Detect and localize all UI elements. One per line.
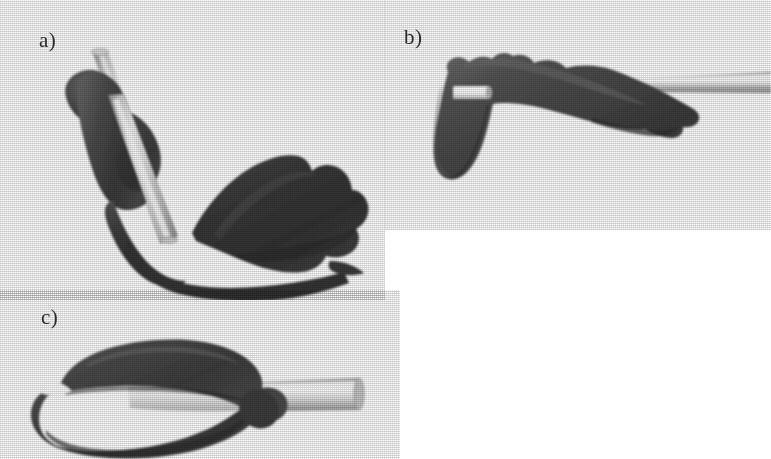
panel-label-b: b) (404, 27, 423, 48)
panel-a-render (0, 0, 385, 300)
bone-specimen-b (433, 53, 699, 180)
figure-canvas: a) b) c) (0, 0, 771, 459)
panel-c (0, 290, 400, 459)
panel-a (0, 0, 385, 300)
bone-specimen-a (65, 70, 368, 300)
panel-label-c: c) (41, 307, 58, 328)
panel-b-render (385, 0, 771, 230)
panel-label-a: a) (39, 30, 56, 51)
panel-b (385, 0, 771, 230)
panel-c-render (0, 290, 400, 459)
rod-stub-highlight-b (453, 86, 492, 99)
